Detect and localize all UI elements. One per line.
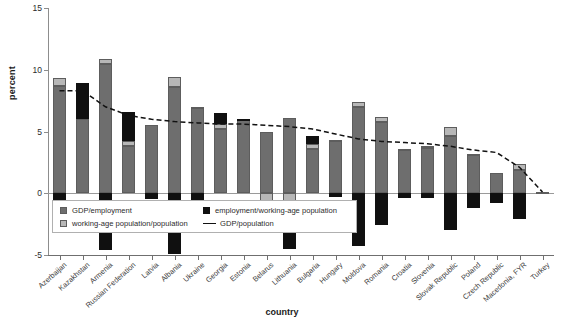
x-tick (106, 255, 107, 260)
line-swatch-icon (203, 223, 216, 224)
x-tick (221, 255, 222, 260)
x-tick-label: Bulgaria (295, 261, 320, 285)
legend-item-employment-working-age: employment/working-age population (203, 206, 337, 215)
legend-label: employment/working-age population (215, 206, 337, 215)
x-tick (405, 255, 406, 260)
y-axis-label: percent (7, 53, 17, 113)
x-tick-label: Turkey (529, 261, 551, 281)
x-tick (313, 255, 314, 260)
x-tick (198, 255, 199, 260)
gdpemp-swatch-icon (60, 207, 67, 214)
x-tick (267, 255, 268, 260)
legend-item-working-age-population: working-age population/population (60, 219, 188, 228)
x-tick (336, 255, 337, 260)
x-tick (543, 255, 544, 260)
x-tick-label: Albania (159, 261, 182, 283)
x-tick-label: Hungary (318, 261, 344, 285)
x-tick-label: Latvia (140, 261, 160, 280)
legend-item-gdp-employment: GDP/employment (60, 206, 132, 215)
y-tick-label: 5 (37, 127, 42, 136)
chart-figure: percent country -5051015 AzerbaijanKazak… (0, 0, 564, 327)
x-tick (451, 255, 452, 260)
y-tick-label: -5 (34, 251, 42, 260)
x-tick (497, 255, 498, 260)
x-tick-label: Ukraine (182, 261, 206, 284)
x-tick-label-group: AzerbaijanKazakhstanArmeniaRussian Feder… (48, 261, 564, 307)
x-tick (520, 255, 521, 260)
x-tick (175, 255, 176, 260)
x-tick (60, 255, 61, 260)
trend-polyline (60, 91, 543, 192)
x-tick (129, 255, 130, 260)
x-tick (382, 255, 383, 260)
x-tick-label: Georgia (204, 261, 228, 284)
empwap-swatch-icon (203, 207, 210, 214)
x-tick (359, 255, 360, 260)
x-tick (474, 255, 475, 260)
x-tick (290, 255, 291, 260)
chart-legend: GDP/employment working-age population/po… (52, 200, 357, 233)
x-tick-label: Romania (363, 261, 390, 286)
y-tick-label: 15 (33, 4, 42, 13)
legend-label: working-age population/population (72, 219, 188, 228)
x-axis-line (48, 255, 554, 256)
x-axis-label: country (0, 307, 564, 317)
legend-label: GDP/population (220, 219, 274, 228)
y-tick-label: 0 (37, 189, 42, 198)
y-tick-label: 10 (33, 66, 42, 75)
x-tick (428, 255, 429, 260)
x-tick (83, 255, 84, 260)
wap-swatch-icon (60, 220, 67, 227)
x-tick (152, 255, 153, 260)
x-tick (244, 255, 245, 260)
x-tick-label: Estonia (228, 261, 251, 283)
legend-item-gdp-population: GDP/population (203, 219, 274, 228)
legend-label: GDP/employment (72, 206, 132, 215)
x-tick-label: Moldova (341, 261, 367, 285)
